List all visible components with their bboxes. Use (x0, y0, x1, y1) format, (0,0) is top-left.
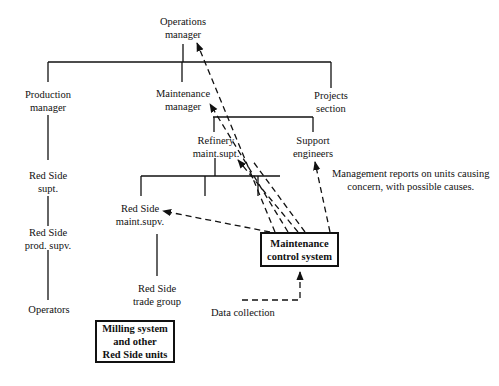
node-red-side-maint-supv: Red Side maint.supv. (116, 202, 164, 228)
label: maint.supt. (193, 147, 240, 160)
label: Projects (314, 89, 348, 102)
node-support-engineers: Support engineers (293, 134, 333, 160)
label: Support (293, 134, 333, 147)
label: trade group (133, 295, 181, 308)
label: control system (262, 250, 337, 263)
label: manager (25, 101, 71, 114)
label: prod. supv. (25, 239, 71, 252)
label: Red Side (116, 202, 164, 215)
annotation-data-collection: Data collection (211, 306, 275, 319)
annotation-management-reports: Management reports on units causing conc… (332, 167, 489, 193)
node-production-manager: Production manager (25, 88, 71, 114)
label: maint.supv. (116, 215, 164, 228)
node-projects-section: Projects section (314, 89, 348, 115)
label: Refinery (193, 134, 240, 147)
label: Maintenance (262, 237, 337, 250)
label: Operations (160, 15, 206, 28)
node-red-side-trade-group: Red Side trade group (133, 282, 181, 308)
label: Milling system (97, 322, 173, 335)
label: Red Side (29, 169, 67, 182)
node-operators: Operators (28, 303, 69, 316)
box-milling-system: Milling system and other Red Side units (95, 320, 175, 363)
label: manager (160, 28, 206, 41)
label: Operators (28, 303, 69, 316)
node-red-side-prod-supv: Red Side prod. supv. (25, 226, 71, 252)
label: Management reports on units causing (332, 167, 489, 180)
label: Red Side units (97, 348, 173, 361)
label: supt. (29, 182, 67, 195)
node-operations-manager: Operations manager (160, 15, 206, 41)
connector-layer (0, 0, 499, 386)
label: Maintenance (156, 87, 210, 100)
node-refinery-maint-supt: Refinery maint.supt. (193, 134, 240, 160)
label: and other (97, 335, 173, 348)
node-red-side-supt: Red Side supt. (29, 169, 67, 195)
label: section (314, 102, 348, 115)
label: Red Side (25, 226, 71, 239)
label: Red Side (133, 282, 181, 295)
label: Production (25, 88, 71, 101)
node-maintenance-manager: Maintenance manager (156, 87, 210, 113)
box-maintenance-control-system: Maintenance control system (260, 232, 339, 267)
label: manager (156, 100, 210, 113)
label: concern, with possible causes. (332, 180, 489, 193)
label: engineers (293, 147, 333, 160)
